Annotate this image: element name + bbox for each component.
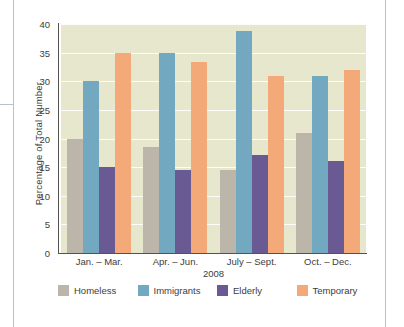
x-tick-label: Oct. – Dec.: [290, 256, 366, 267]
bar-fill: [296, 133, 312, 253]
bar-group: [137, 24, 213, 253]
page-rule-left: [13, 0, 14, 327]
bar-temporary[interactable]: [344, 70, 360, 253]
bar-elderly[interactable]: [252, 155, 268, 253]
legend-item-elderly[interactable]: Elderly: [217, 285, 297, 296]
legend-swatch-icon: [297, 285, 308, 296]
y-tick-label: 40: [39, 19, 50, 30]
x-tick-label: Apr. – Jun.: [137, 256, 213, 267]
legend-swatch-icon: [138, 285, 149, 296]
x-axis-line: [58, 253, 367, 254]
y-tick-label: 15: [39, 162, 50, 173]
bar-elderly[interactable]: [99, 167, 115, 253]
y-tick-label: 20: [39, 133, 50, 144]
bar-group: [214, 24, 290, 253]
legend-item-temporary[interactable]: Temporary: [297, 285, 377, 296]
bar-temporary[interactable]: [115, 53, 131, 253]
x-tick-label: July – Sept.: [214, 256, 290, 267]
legend-swatch-icon: [217, 285, 228, 296]
y-tick-label: 35: [39, 47, 50, 58]
bar-fill: [220, 170, 236, 253]
legend-swatch-icon: [58, 285, 69, 296]
legend-label: Homeless: [74, 285, 116, 296]
bar-immigrants[interactable]: [159, 53, 175, 253]
bar-fill: [115, 53, 131, 253]
legend-label: Elderly: [233, 285, 262, 296]
bar-immigrants[interactable]: [83, 81, 99, 253]
bar-fill: [159, 53, 175, 253]
bar-homeless[interactable]: [143, 147, 159, 253]
y-axis-tick-labels: 0510152025303540: [26, 24, 54, 253]
bar-elderly[interactable]: [328, 161, 344, 253]
bar-homeless[interactable]: [296, 133, 312, 253]
bar-homeless[interactable]: [67, 139, 83, 254]
bar-fill: [328, 161, 344, 253]
bar-group: [290, 24, 366, 253]
y-tick-label: 0: [45, 248, 50, 259]
y-tick-label: 5: [45, 219, 50, 230]
bar-immigrants[interactable]: [312, 76, 328, 253]
bar-group: [61, 24, 137, 253]
legend-label: Temporary: [313, 285, 358, 296]
bar-fill: [236, 31, 252, 253]
bar-fill: [175, 170, 191, 253]
bar-fill: [83, 81, 99, 253]
page-rule-right: [385, 0, 386, 327]
legend-item-homeless[interactable]: Homeless: [58, 285, 138, 296]
page-rule-cross: [0, 104, 14, 105]
bar-fill: [344, 70, 360, 253]
bar-fill: [252, 155, 268, 253]
bar-temporary[interactable]: [191, 62, 207, 253]
bar-fill: [99, 167, 115, 253]
legend-item-immigrants[interactable]: Immigrants: [138, 285, 218, 296]
bar-homeless[interactable]: [220, 170, 236, 253]
y-tick-label: 10: [39, 190, 50, 201]
bar-temporary[interactable]: [268, 76, 284, 253]
bar-fill: [191, 62, 207, 253]
y-axis-line: [58, 23, 59, 254]
x-tick-label: Jan. – Mar.: [61, 256, 137, 267]
bar-fill: [268, 76, 284, 253]
bar-chart-figure: Percentage of Total Number 0510152025303…: [0, 0, 404, 327]
legend: HomelessImmigrantsElderlyTemporary: [58, 285, 376, 296]
bar-groups: [61, 24, 366, 253]
plot-area: [61, 24, 366, 253]
bar-fill: [67, 139, 83, 254]
bar-elderly[interactable]: [175, 170, 191, 253]
y-tick-label: 30: [39, 76, 50, 87]
legend-label: Immigrants: [154, 285, 201, 296]
y-tick-label: 25: [39, 104, 50, 115]
bar-immigrants[interactable]: [236, 31, 252, 253]
x-axis-label: 2008: [61, 268, 366, 279]
bar-fill: [312, 76, 328, 253]
x-axis-tick-labels: Jan. – Mar.Apr. – Jun.July – Sept.Oct. –…: [61, 256, 366, 267]
bar-fill: [143, 147, 159, 253]
